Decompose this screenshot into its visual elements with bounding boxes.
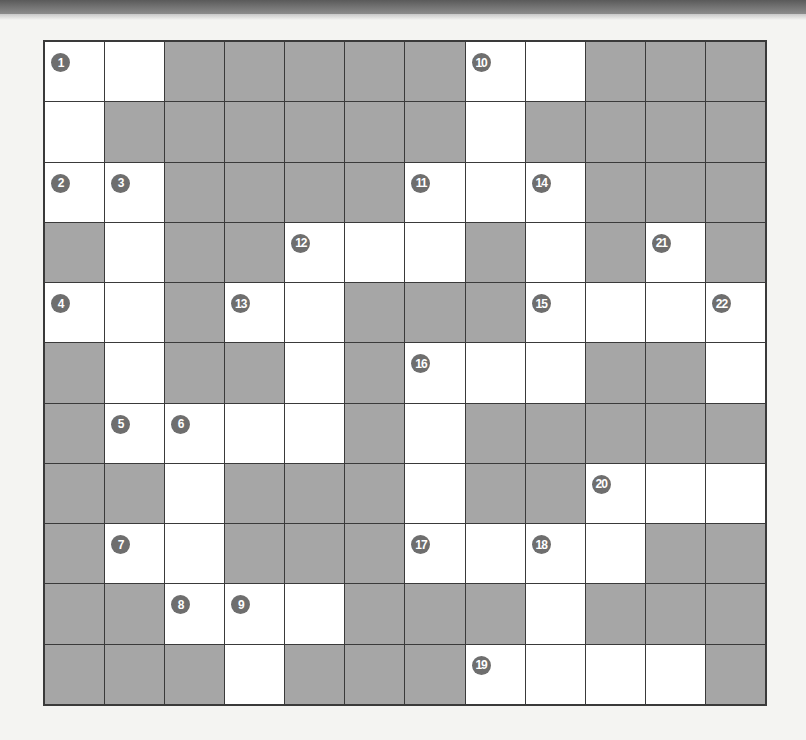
grid-cell[interactable]: 7 [105, 524, 164, 583]
grid-cell[interactable] [405, 223, 464, 282]
clue-number-badge: 12 [291, 234, 310, 253]
grid-cell[interactable] [405, 464, 464, 523]
grid-cell[interactable]: 17 [405, 524, 464, 583]
grid-cell[interactable]: 18 [526, 524, 585, 583]
grid-cell[interactable]: 1 [45, 42, 104, 101]
black-cell [105, 645, 164, 704]
grid-cell[interactable] [646, 464, 705, 523]
black-cell [646, 404, 705, 463]
grid-cell[interactable]: 9 [225, 584, 284, 643]
grid-cell[interactable] [285, 584, 344, 643]
black-cell [706, 102, 765, 161]
grid-cell[interactable] [285, 283, 344, 342]
black-cell [165, 163, 224, 222]
clue-number-badge: 9 [231, 595, 250, 614]
black-cell [405, 584, 464, 643]
black-cell [405, 102, 464, 161]
black-cell [285, 645, 344, 704]
grid-cell[interactable]: 13 [225, 283, 284, 342]
grid-cell[interactable]: 21 [646, 223, 705, 282]
black-cell [225, 102, 284, 161]
black-cell [586, 163, 645, 222]
grid-cell[interactable] [285, 404, 344, 463]
black-cell [466, 464, 525, 523]
grid-cell[interactable]: 15 [526, 283, 585, 342]
grid-cell[interactable] [285, 343, 344, 402]
black-cell [45, 645, 104, 704]
grid-cell[interactable] [646, 283, 705, 342]
black-cell [405, 645, 464, 704]
grid-cell[interactable] [706, 343, 765, 402]
black-cell [45, 404, 104, 463]
black-cell [285, 524, 344, 583]
grid-cell[interactable] [706, 464, 765, 523]
grid-cell[interactable] [105, 343, 164, 402]
grid-cell[interactable] [586, 645, 645, 704]
grid-cell[interactable]: 3 [105, 163, 164, 222]
grid-cell[interactable] [225, 404, 284, 463]
top-bar [0, 0, 806, 14]
grid-cell[interactable] [345, 223, 404, 282]
grid-cell[interactable]: 20 [586, 464, 645, 523]
grid-cell[interactable] [586, 283, 645, 342]
black-cell [345, 464, 404, 523]
black-cell [586, 42, 645, 101]
grid-cell[interactable]: 22 [706, 283, 765, 342]
clue-number-badge: 18 [532, 535, 551, 554]
clue-number-badge: 8 [171, 595, 190, 614]
black-cell [646, 343, 705, 402]
black-cell [646, 42, 705, 101]
black-cell [165, 645, 224, 704]
grid-cell[interactable] [466, 343, 525, 402]
grid-cell[interactable] [646, 645, 705, 704]
grid-cell[interactable]: 10 [466, 42, 525, 101]
black-cell [345, 584, 404, 643]
black-cell [646, 584, 705, 643]
grid-cell[interactable]: 5 [105, 404, 164, 463]
grid-cell[interactable]: 19 [466, 645, 525, 704]
grid-cell[interactable]: 4 [45, 283, 104, 342]
black-cell [105, 102, 164, 161]
grid-cell[interactable]: 12 [285, 223, 344, 282]
grid-cell[interactable] [466, 102, 525, 161]
black-cell [45, 584, 104, 643]
grid-cell[interactable]: 14 [526, 163, 585, 222]
grid-cell[interactable]: 11 [405, 163, 464, 222]
black-cell [405, 42, 464, 101]
grid-cell[interactable]: 16 [405, 343, 464, 402]
clue-number-badge: 7 [111, 535, 130, 554]
black-cell [105, 584, 164, 643]
grid-cell[interactable] [466, 163, 525, 222]
grid-cell[interactable] [165, 524, 224, 583]
clue-number-badge: 14 [532, 174, 551, 193]
grid-cell[interactable] [105, 223, 164, 282]
black-cell [586, 223, 645, 282]
black-cell [345, 524, 404, 583]
grid-cell[interactable]: 8 [165, 584, 224, 643]
black-cell [706, 163, 765, 222]
black-cell [405, 283, 464, 342]
grid-cell[interactable] [466, 524, 525, 583]
grid-cell[interactable] [526, 42, 585, 101]
grid-cell[interactable]: 6 [165, 404, 224, 463]
grid-cell[interactable] [225, 645, 284, 704]
black-cell [285, 163, 344, 222]
grid-cell[interactable] [526, 343, 585, 402]
grid-cell[interactable] [526, 223, 585, 282]
black-cell [345, 343, 404, 402]
grid-cell[interactable] [105, 42, 164, 101]
black-cell [526, 464, 585, 523]
clue-number-badge: 5 [111, 415, 130, 434]
black-cell [285, 42, 344, 101]
grid-cell[interactable] [586, 524, 645, 583]
grid-cell[interactable] [45, 102, 104, 161]
black-cell [345, 645, 404, 704]
grid-cell[interactable] [405, 404, 464, 463]
grid-cell[interactable] [165, 464, 224, 523]
grid-cell[interactable] [526, 645, 585, 704]
grid-cell[interactable] [105, 283, 164, 342]
black-cell [225, 163, 284, 222]
grid-cell[interactable]: 2 [45, 163, 104, 222]
black-cell [165, 42, 224, 101]
grid-cell[interactable] [526, 584, 585, 643]
